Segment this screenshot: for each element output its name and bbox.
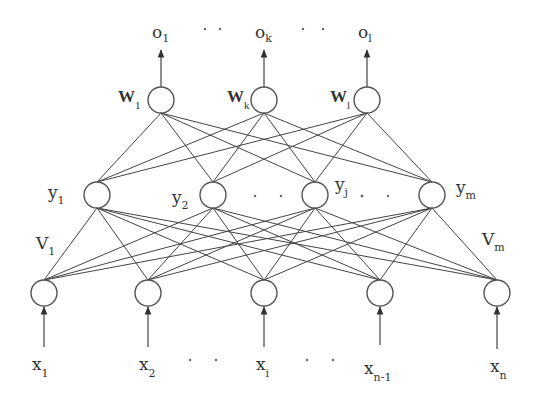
hidden-node-2: [200, 182, 226, 208]
hidden-node-1: [84, 182, 110, 208]
connection-edge: [315, 113, 367, 182]
hidden-labels: y1 y2 yj ym: [47, 174, 477, 212]
svg-text:ym: ym: [455, 177, 477, 202]
label-w1: W: [118, 87, 135, 106]
output-labels: o1 ok ol: [152, 22, 372, 45]
label-wl: W: [330, 87, 347, 106]
hidden-node-m: [419, 182, 445, 208]
svg-text:x2: x2: [139, 354, 156, 380]
connection-edge: [44, 208, 213, 280]
svg-text:xi: xi: [256, 354, 270, 380]
connection-edge: [97, 113, 161, 182]
svg-text:yj: yj: [334, 174, 348, 199]
input-node-i: [251, 280, 277, 306]
label-y1: y: [47, 182, 58, 202]
connection-edge: [97, 113, 367, 182]
connection-edge: [315, 208, 380, 280]
connection-edge: [161, 113, 432, 182]
label-ol: o: [358, 22, 368, 42]
neural-network-diagram: o1 ok ol W1 Wk Wl y1 y2 yj ym V1 Vm x1 x…: [0, 0, 537, 401]
connection-edge: [97, 208, 497, 280]
label-ym: y: [455, 177, 466, 197]
label-x2: x: [139, 354, 149, 374]
output-node-1: [148, 87, 174, 113]
label-x1: x: [32, 354, 42, 374]
svg-text:y1: y1: [47, 182, 65, 207]
label-wk: W: [227, 87, 244, 106]
svg-text:o1: o1: [152, 22, 169, 45]
svg-text:Wk: Wk: [227, 87, 250, 111]
svg-text:xn: xn: [490, 356, 507, 382]
hidden-layer: [84, 182, 445, 208]
label-xn: x: [490, 356, 500, 376]
hidden-node-j: [302, 182, 328, 208]
svg-text:xn-1: xn-1: [364, 358, 391, 384]
label-ok: o: [255, 22, 265, 42]
label-v1: V: [35, 233, 49, 253]
output-arrows: [161, 50, 367, 87]
label-y2: y: [171, 187, 182, 207]
svg-text:Wl: Wl: [330, 87, 350, 111]
svg-text:V1: V1: [35, 233, 55, 258]
svg-text:x1: x1: [32, 354, 49, 380]
label-o1: o: [152, 22, 162, 42]
output-node-k: [251, 87, 277, 113]
input-arrows: [44, 307, 497, 349]
output-node-l: [354, 87, 380, 113]
label-vm: V: [481, 229, 495, 249]
connection-edge: [161, 113, 213, 182]
svg-text:ol: ol: [358, 22, 372, 45]
label-xi: x: [256, 354, 266, 374]
svg-text:W1: W1: [118, 87, 141, 111]
input-node-1: [31, 280, 57, 306]
label-xn-1: x: [364, 358, 374, 378]
input-hidden-edges: [44, 208, 497, 280]
connection-edge: [367, 113, 432, 182]
input-node-2: [135, 280, 161, 306]
input-layer: [31, 280, 510, 306]
svg-text:y2: y2: [171, 187, 189, 212]
input-node-n-1: [367, 280, 393, 306]
input-labels: x1 x2 xi xn-1 xn: [32, 354, 507, 384]
input-node-n: [484, 280, 510, 306]
svg-text:ok: ok: [255, 22, 272, 45]
label-yj: y: [334, 174, 345, 194]
svg-text:Vm: Vm: [481, 229, 505, 254]
hidden-output-edges: [97, 113, 432, 182]
